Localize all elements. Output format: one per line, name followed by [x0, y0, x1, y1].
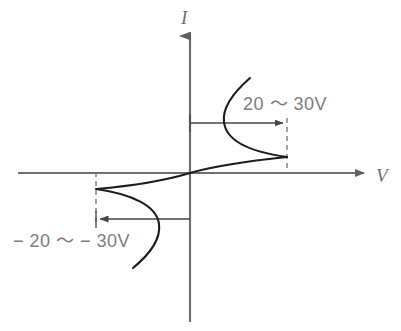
iv-chart-canvas: I V 20 ～ 30V − 20 ～ − 30V	[0, 0, 401, 331]
iv-characteristic-figure: I V 20 ～ 30V − 20 ～ − 30V	[0, 0, 401, 331]
voltage-axis-label: V	[376, 165, 390, 186]
positive-threshold-label: 20 ～ 30V	[243, 94, 327, 114]
current-axis-label: I	[180, 7, 189, 28]
negative-threshold-label: − 20 ～ − 30V	[13, 231, 130, 251]
